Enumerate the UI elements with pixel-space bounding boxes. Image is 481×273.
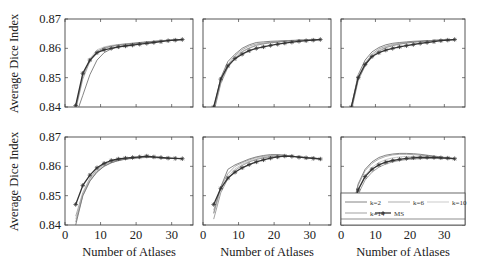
panel-bottom-left: 0.840.850.860.870102030 xyxy=(39,130,193,242)
series-k-2 xyxy=(76,157,183,225)
x-tick-label: 0 xyxy=(200,228,206,242)
series-k-14 xyxy=(214,156,321,219)
series-MS xyxy=(214,40,321,108)
series-k-2 xyxy=(76,40,183,116)
y-tick-label: 0.84 xyxy=(39,100,62,114)
series-k-6 xyxy=(214,155,321,210)
plot-grid: 0.840.850.860.870.840.850.860.8701020300… xyxy=(0,0,481,273)
axes-frame xyxy=(65,137,193,225)
y-tick-label: 0.86 xyxy=(39,41,61,55)
series-k-10 xyxy=(351,40,454,110)
x-axis-label-left: Number of Atlases xyxy=(65,245,193,260)
series-k-10 xyxy=(76,158,183,220)
x-tick-label: 10 xyxy=(232,228,245,242)
series-k-10 xyxy=(76,40,183,108)
series-k-14 xyxy=(76,158,183,223)
series-k-14 xyxy=(351,40,454,112)
y-tick-label: 0.86 xyxy=(39,159,61,173)
series-k-10 xyxy=(214,40,321,112)
panel-top-right xyxy=(341,19,465,111)
series-k-6 xyxy=(351,40,454,109)
series-k-2 xyxy=(214,155,321,214)
x-tick-label: 0 xyxy=(62,228,68,242)
series-k-14 xyxy=(76,40,183,109)
x-tick-label: 30 xyxy=(438,228,451,242)
panel-top-middle xyxy=(203,19,331,113)
panel-bottom-middle: 0102030 xyxy=(200,137,331,242)
y-tick-label: 0.87 xyxy=(39,130,61,144)
legend: k=2k=6k=10k=14MS xyxy=(341,193,467,225)
x-axis-label-right: Number of Atlases xyxy=(341,245,465,260)
series-MS xyxy=(76,40,183,106)
series-MS xyxy=(351,40,454,108)
series-MS xyxy=(76,156,183,204)
series-k-6 xyxy=(214,40,321,109)
series-k-2 xyxy=(351,40,454,108)
x-axis-label-middle: Number of Atlases xyxy=(203,245,331,260)
axes-frame xyxy=(65,19,193,107)
x-tick-label: 10 xyxy=(94,228,107,242)
panel-bottom-right: 0102030k=2k=6k=10k=14MS xyxy=(338,137,467,242)
svg-text:MS: MS xyxy=(394,210,404,218)
svg-text:k=10: k=10 xyxy=(452,199,467,207)
x-tick-label: 30 xyxy=(165,228,178,242)
svg-text:k=6: k=6 xyxy=(413,199,424,207)
axes-frame xyxy=(203,137,331,225)
x-tick-label: 20 xyxy=(404,228,417,242)
series-k-6 xyxy=(76,157,183,216)
y-tick-label: 0.85 xyxy=(39,71,61,85)
series-k-6 xyxy=(76,40,183,110)
panel-top-left: 0.840.850.860.87 xyxy=(39,12,193,116)
figure: Average Dice Index Average Dice Index 0.… xyxy=(0,0,481,273)
y-tick-label: 0.84 xyxy=(39,218,62,232)
x-tick-label: 0 xyxy=(338,228,344,242)
y-tick-label: 0.85 xyxy=(39,189,61,203)
x-tick-label: 20 xyxy=(130,228,143,242)
x-tick-label: 10 xyxy=(369,228,382,242)
series-k-10 xyxy=(214,156,321,214)
series-MS xyxy=(214,156,321,204)
y-tick-label: 0.87 xyxy=(39,12,61,26)
svg-text:k=2: k=2 xyxy=(370,199,381,207)
axes-frame xyxy=(341,19,465,107)
axes-frame xyxy=(203,19,331,107)
series-k-14 xyxy=(214,40,321,113)
series-k-2 xyxy=(214,40,321,110)
x-tick-label: 30 xyxy=(303,228,316,242)
x-tick-label: 20 xyxy=(268,228,281,242)
